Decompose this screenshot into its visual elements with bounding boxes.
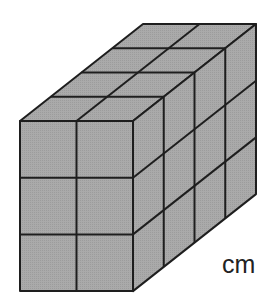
unit-label: cm xyxy=(222,252,255,277)
prism-faces xyxy=(20,24,256,291)
